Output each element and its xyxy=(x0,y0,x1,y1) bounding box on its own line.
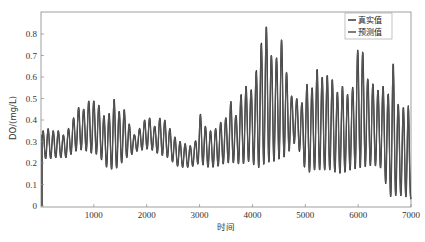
x-axis-title: 时间 xyxy=(217,222,235,232)
x-tick-label: 3000 xyxy=(191,210,210,220)
x-tick-label: 6000 xyxy=(349,210,368,220)
y-axis-title: DO/(mg/L) xyxy=(8,96,18,140)
y-tick-label: 0 xyxy=(33,201,38,211)
x-tick-label: 7000 xyxy=(402,210,421,220)
plot-frame xyxy=(41,12,411,207)
x-tick-label: 1000 xyxy=(85,210,104,220)
x-tick-label: 5000 xyxy=(296,210,315,220)
y-tick-label: 0.6 xyxy=(26,72,38,82)
y-tick-label: 0.2 xyxy=(26,158,37,168)
y-tick-label: 0.1 xyxy=(26,180,37,190)
series-layer xyxy=(42,27,411,206)
y-tick-label: 0.5 xyxy=(26,94,38,104)
series-predicted-line xyxy=(42,27,411,206)
line-chart: 00.10.20.30.40.50.60.70.8 10002000300040… xyxy=(0,0,425,242)
x-tick-label: 2000 xyxy=(138,210,157,220)
legend-label-predicted: 预测值 xyxy=(358,27,382,37)
x-tick-label: 4000 xyxy=(243,210,262,220)
x-axis: 1000200030004000500060007000 xyxy=(85,204,421,220)
legend-label-actual: 真实值 xyxy=(358,15,382,25)
y-tick-label: 0.3 xyxy=(26,137,38,147)
y-tick-label: 0.7 xyxy=(26,51,38,61)
y-tick-label: 0.4 xyxy=(26,115,38,125)
series-actual-line xyxy=(42,27,411,206)
y-tick-label: 0.8 xyxy=(26,29,38,39)
legend: 真实值 预测值 xyxy=(345,13,392,39)
